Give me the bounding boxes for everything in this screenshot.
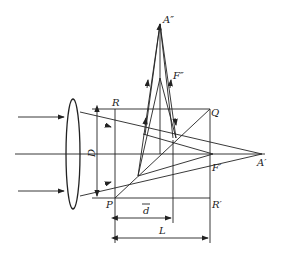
label-A-prime: A′	[256, 157, 267, 168]
label-L: L	[158, 225, 166, 236]
label-R: R	[111, 97, 120, 108]
ray-diagram-svg: A″ F″ R Q D A′ F′ P R′ d L	[0, 0, 284, 257]
label-d-bar: d	[143, 205, 149, 216]
label-Q: Q	[211, 107, 219, 118]
ray-bottom-to-A-prime	[80, 154, 262, 196]
label-F-prime: F′	[211, 162, 222, 173]
diagonal-PQ	[115, 109, 210, 198]
label-D: D	[86, 149, 97, 158]
label-F-double-prime: F″	[172, 70, 184, 81]
optical-diagram: A″ F″ R Q D A′ F′ P R′ d L	[0, 0, 284, 257]
label-A-double-prime: A″	[162, 14, 174, 25]
label-P: P	[105, 199, 113, 210]
label-R-prime: R′	[211, 199, 223, 210]
